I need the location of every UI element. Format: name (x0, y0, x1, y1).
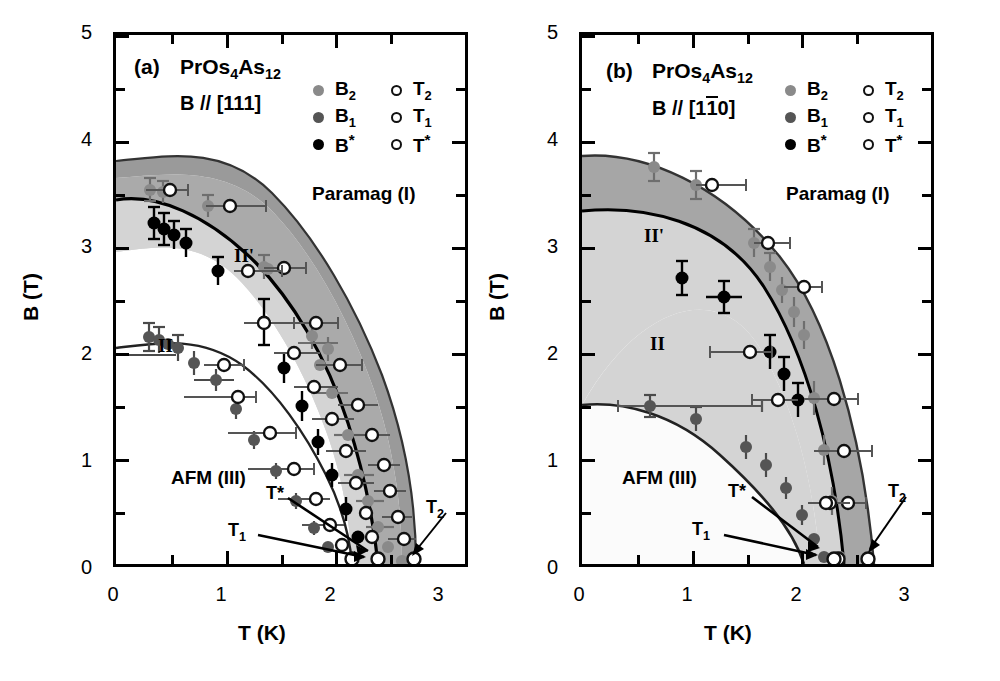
tstar-marker-icon (388, 139, 404, 150)
legend-label-T2-b: T2 (885, 78, 904, 103)
legend-label-B2: B2 (335, 78, 356, 103)
panel-b-rtick-2h (922, 300, 931, 303)
panel-a-label-T2: T2 (426, 497, 444, 521)
figure-root: 5 4 3 2 1 0 B (T) 0 1 2 3 T (K) (0, 0, 1000, 681)
panel-b-legend: B2 T2 B1 T1 (782, 77, 931, 158)
panel-b-ytick-mark-4h (582, 88, 591, 91)
panel-a-ttick-1h (281, 35, 284, 44)
panel-a-ytick-1: 1 (62, 449, 92, 472)
panel-b-rtick-0h (922, 512, 931, 515)
panel-b-ytick-0: 0 (528, 556, 558, 579)
b1-marker-icon (310, 112, 326, 123)
legend-cell-Tstar: T* (388, 131, 465, 157)
panel-b-compound-sub1: 4 (702, 70, 710, 86)
panel-a-rtick-0h (456, 512, 465, 515)
panel-a-tag: (a) (134, 55, 160, 79)
panel-b-phase-paramag: Paramag (I) (786, 183, 889, 205)
panel-b-ytick-mark-0h (582, 512, 591, 515)
legend-label-Tstar-b: T* (885, 131, 903, 157)
panel-a-phase-AFM: AFM (III) (171, 467, 246, 489)
legend-label-B1-b: B1 (807, 105, 828, 130)
legend-row-1-b: B2 T2 (782, 77, 931, 104)
legend-cell-T1: T1 (388, 105, 465, 130)
panel-b-label-T1: T1 (692, 519, 710, 543)
panel-a-ytick-mark-5 (116, 35, 129, 38)
panel-a-phase-II: II (158, 335, 173, 357)
panel-b-direction-pre: B // [1 (652, 97, 706, 119)
panel-b-ttick-1 (692, 35, 695, 48)
legend-label-Bstar-b: B* (807, 131, 827, 157)
panel-a-x-axis-label: T (K) (238, 621, 286, 645)
panel-b-ttick-1h (747, 35, 750, 44)
legend-cell-T2-b: T2 (860, 78, 931, 103)
legend-label-T2: T2 (413, 78, 432, 103)
panel-b-compound: PrOs4As12 (652, 59, 753, 86)
panel-b-compound-pre: PrOs (652, 59, 702, 82)
legend-cell-B2-b: B2 (782, 78, 860, 103)
panel-b-ytick-mark-3 (582, 247, 595, 250)
panel-a-compound-sub2: 12 (265, 66, 281, 82)
panel-b-xtick-2: 2 (781, 583, 811, 606)
legend-cell-T2: T2 (388, 78, 465, 103)
legend-row-2-b: B1 T1 (782, 104, 931, 131)
bstar-marker-icon (310, 139, 326, 150)
panel-a-rtick-4 (452, 141, 465, 144)
panel-a-ttick-2 (335, 35, 338, 48)
legend-cell-T1-b: T1 (860, 105, 931, 130)
panel-a-direction-post: 1] (243, 92, 261, 114)
legend-row-1: B2 T2 (310, 77, 465, 104)
legend-label-Tstar: T* (413, 131, 431, 157)
panel-b-phase-II-prime: II' (644, 225, 664, 247)
panel-b-ytick-mark-2 (582, 353, 595, 356)
legend-label-B2-b: B2 (807, 78, 828, 103)
panel-b-ytick-4: 4 (528, 128, 558, 151)
panel-a-xtick-mark-2 (335, 551, 338, 564)
panel-b-ytick-mark-4 (582, 141, 595, 144)
panel-a-ytick-mark-2 (116, 353, 129, 356)
panel-b-compound-mid: As (710, 59, 737, 82)
panel-a-rtick-2h (456, 300, 465, 303)
panel-a-ytick-0: 0 (62, 556, 92, 579)
panel-a-ytick-mark-0h (116, 512, 125, 515)
panel-a-plot-area: (a) PrOs4As12 B // [111] B2 (116, 35, 465, 564)
legend-row-3: B* T* (310, 131, 465, 158)
panel-b-ytick-1: 1 (528, 449, 558, 472)
panel-b-rtick-3h (922, 194, 931, 197)
panel-b-plot-frame: (b) PrOs4As12 B // [110] B2 (579, 32, 934, 567)
panel-b-ytick-2: 2 (528, 342, 558, 365)
panel-b-rtick-4 (918, 141, 931, 144)
b2-marker-icon (310, 85, 326, 96)
panel-b-xtick-mark-0h (637, 555, 640, 564)
panel-b-ttick-2 (801, 35, 804, 48)
caption-strip (0, 665, 1000, 681)
panel-a-ytick-mark-2h (116, 300, 125, 303)
panel-b-ytick-mark-1h (582, 406, 591, 409)
panel-a-rtick-4h (456, 88, 465, 91)
panel-b-phase-AFM: AFM (III) (622, 467, 697, 489)
panel-a-ttick-0h (171, 35, 174, 44)
panel-a-direction: B // [111] (180, 92, 261, 115)
legend-cell-B1-b: B1 (782, 105, 860, 130)
panel-a-label-Tstar: T* (266, 483, 284, 504)
tstar-marker-icon-b (860, 139, 876, 150)
panel-a-ytick-5: 5 (62, 21, 92, 44)
panel-a-compound-pre: PrOs (180, 55, 230, 78)
panel-b-ytick-mark-2h (582, 300, 591, 303)
panel-a-y-axis-label: B (T) (19, 257, 43, 337)
panel-a-xtick-mark-1 (226, 551, 229, 564)
panel-a-plot-frame: (a) PrOs4As12 B // [111] B2 (113, 32, 468, 567)
panel-a-rtick-2 (452, 353, 465, 356)
legend-label-B1: B1 (335, 105, 356, 130)
t2-marker-icon (388, 85, 404, 96)
legend-cell-Bstar-b: B* (782, 131, 860, 157)
panel-b-ytick-mark-1 (582, 459, 595, 462)
panel-b-label-Tstar: T* (728, 481, 746, 502)
panel-a-ytick-mark-4h (116, 88, 125, 91)
panel-b-rtick-3 (918, 247, 931, 250)
panel-a-xtick-2: 2 (315, 583, 345, 606)
legend-cell-B1: B1 (310, 105, 388, 130)
panel-a: 5 4 3 2 1 0 B (T) 0 1 2 3 T (K) (0, 0, 500, 681)
panel-b-tag: (b) (606, 59, 633, 83)
legend-cell-Tstar-b: T* (860, 131, 931, 157)
panel-b-rtick-4h (922, 88, 931, 91)
